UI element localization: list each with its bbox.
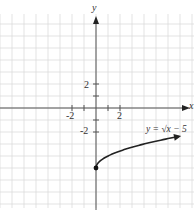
start-point [94, 166, 99, 171]
function-label: y = √x − 5 [146, 125, 187, 135]
axes [0, 16, 190, 210]
y-tick-label-neg2: -2 [80, 126, 88, 136]
x-tick-label-neg2: -2 [66, 111, 74, 121]
function-curve [96, 136, 179, 168]
grid-lines [0, 14, 194, 208]
y-tick-label-2: 2 [84, 80, 89, 90]
y-axis-arrow-icon [93, 16, 99, 24]
x-tick-label-2: 2 [117, 111, 122, 121]
x-axis-label: x [189, 101, 193, 111]
function-graph [0, 0, 194, 212]
y-axis-label: y [92, 3, 96, 13]
